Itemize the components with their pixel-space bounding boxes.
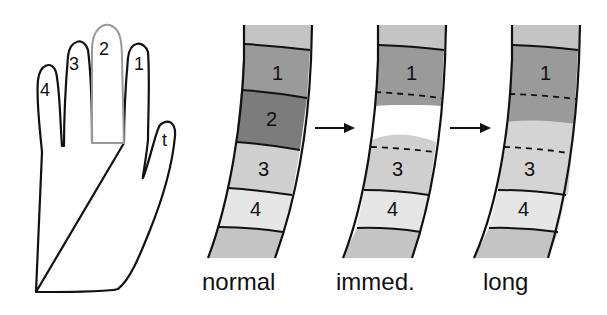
finger-label-1: 1: [134, 54, 144, 74]
finger-label-thumb: t: [162, 130, 167, 150]
svg-text:3: 3: [258, 158, 269, 180]
finger-label-4: 4: [40, 80, 50, 100]
arrow-icon: [315, 123, 355, 133]
svg-text:3: 3: [392, 158, 403, 180]
arrow-icon: [450, 123, 491, 133]
finger-label-3: 3: [69, 54, 79, 74]
svg-text:3: 3: [524, 158, 535, 180]
svg-text:1: 1: [540, 62, 551, 84]
strip-long: 1 3 4 long: [474, 25, 580, 295]
svg-text:2: 2: [266, 108, 277, 130]
strip-immediate: 1 3 4 immed.: [336, 25, 446, 295]
caption-long: long: [483, 268, 528, 295]
figure: 4 3 2 1 t 1 2 3 4 normal: [0, 0, 607, 315]
finger-label-2: 2: [99, 39, 109, 59]
svg-text:4: 4: [387, 198, 398, 220]
hand-outline: 4 3 2 1 t: [36, 25, 175, 292]
strip-normal: 1 2 3 4 normal: [202, 25, 312, 295]
svg-text:4: 4: [250, 198, 261, 220]
svg-text:1: 1: [272, 62, 283, 84]
svg-text:4: 4: [518, 198, 529, 220]
caption-immediate: immed.: [336, 268, 415, 295]
svg-text:1: 1: [406, 62, 417, 84]
caption-normal: normal: [202, 268, 275, 295]
